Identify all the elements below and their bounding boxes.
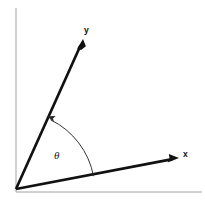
x-axis-arrowhead (168, 154, 179, 163)
x-axis-line (16, 159, 173, 189)
y-axis-line (16, 46, 81, 190)
diagram-svg (0, 0, 205, 202)
y-axis-arrowhead (77, 39, 86, 50)
x-axis-label: x (183, 150, 188, 159)
figure-canvas: y x θ (0, 0, 205, 202)
angle-theta-label: θ (54, 150, 59, 161)
angle-arc (51, 120, 94, 176)
y-axis-label: y (84, 26, 89, 35)
